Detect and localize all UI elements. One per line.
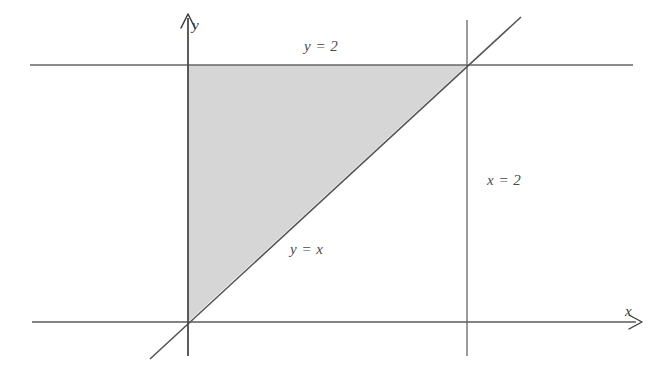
coordinate-plane-diagram bbox=[0, 0, 665, 370]
y-axis-label: y bbox=[192, 17, 199, 34]
label-line-y-equals-x: y = x bbox=[290, 241, 323, 258]
shaded-region-triangle bbox=[188, 65, 467, 322]
label-line-y-equals-2: y = 2 bbox=[304, 38, 338, 55]
figure-canvas: y = 2 x = 2 y = x y x bbox=[0, 0, 665, 370]
x-axis-label: x bbox=[625, 303, 632, 320]
label-line-x-equals-2: x = 2 bbox=[487, 172, 521, 189]
